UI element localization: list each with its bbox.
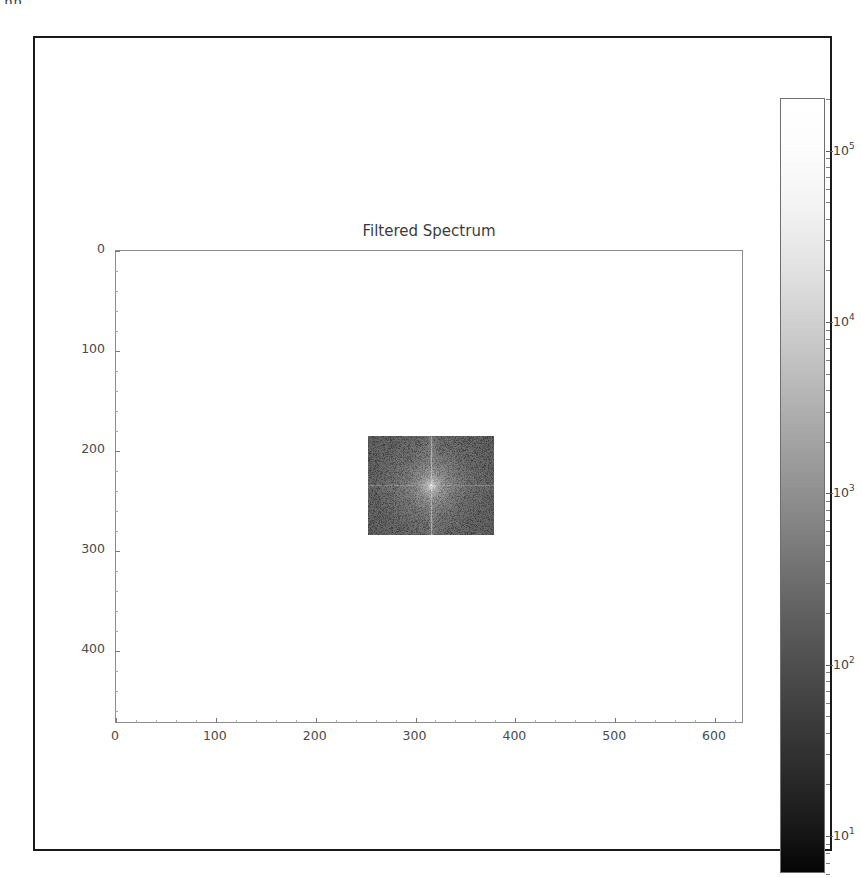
y-tick-minor <box>115 471 118 472</box>
y-tick-minor <box>115 571 118 572</box>
x-tick-minor <box>595 720 596 723</box>
x-tick-minor <box>635 720 636 723</box>
y-tick-minor <box>115 591 118 592</box>
y-tick-minor <box>115 671 118 672</box>
x-tick-minor <box>535 720 536 723</box>
colorbar-tick-minor <box>826 691 830 692</box>
x-tick-major <box>615 718 616 723</box>
y-tick-minor <box>115 411 118 412</box>
colorbar-tick-minor <box>826 99 830 100</box>
x-tick-minor <box>276 720 277 723</box>
colorbar <box>780 98 825 873</box>
x-tick-label: 100 <box>203 728 227 743</box>
x-tick-major <box>715 718 716 723</box>
colorbar-tick-minor <box>826 545 830 546</box>
y-tick-major <box>115 551 120 552</box>
x-tick-major <box>515 718 516 723</box>
y-tick-major <box>115 651 120 652</box>
x-tick-minor <box>695 720 696 723</box>
scan-artifact-text: pp. <box>4 0 28 4</box>
y-tick-major <box>115 251 120 252</box>
page-title: Filtered Spectrum <box>115 222 743 240</box>
colorbar-tick-minor <box>826 874 830 875</box>
colorbar-tick-minor <box>826 853 830 854</box>
x-tick-major <box>416 718 417 723</box>
colorbar-tick-minor <box>826 339 830 340</box>
colorbar-tick-minor <box>826 844 830 845</box>
colorbar-tick-major <box>826 493 833 494</box>
colorbar-tick-label: 102 <box>833 656 855 671</box>
colorbar-tick-minor <box>826 716 830 717</box>
x-tick-minor <box>296 720 297 723</box>
x-tick-major <box>316 718 317 723</box>
colorbar-tick-major <box>826 665 833 666</box>
colorbar-tick-label: 103 <box>833 485 855 500</box>
x-tick-minor <box>655 720 656 723</box>
colorbar-tick-minor <box>826 330 830 331</box>
colorbar-tick-minor <box>826 561 830 562</box>
y-tick-minor <box>115 511 118 512</box>
x-tick-minor <box>555 720 556 723</box>
spectrum-axes <box>115 250 743 723</box>
x-tick-label: 600 <box>702 728 726 743</box>
colorbar-tick-minor <box>826 374 830 375</box>
x-tick-label: 200 <box>303 728 327 743</box>
y-tick-major <box>115 351 120 352</box>
colorbar-tick-minor <box>826 202 830 203</box>
y-tick-minor <box>115 431 118 432</box>
y-tick-minor <box>115 711 118 712</box>
colorbar-tick-minor <box>826 270 830 271</box>
colorbar-tick-minor <box>826 219 830 220</box>
colorbar-tick-major <box>826 151 833 152</box>
colorbar-tick-minor <box>826 510 830 511</box>
x-tick-minor <box>495 720 496 723</box>
x-tick-label: 300 <box>403 728 427 743</box>
colorbar-tick-minor <box>826 167 830 168</box>
y-tick-minor <box>115 631 118 632</box>
y-tick-minor <box>115 531 118 532</box>
y-tick-minor <box>115 611 118 612</box>
x-tick-minor <box>196 720 197 723</box>
colorbar-tick-minor <box>826 501 830 502</box>
colorbar-tick-minor <box>826 189 830 190</box>
colorbar-tick-minor <box>826 240 830 241</box>
y-tick-minor <box>115 311 118 312</box>
x-tick-minor <box>475 720 476 723</box>
colorbar-tick-minor <box>826 754 830 755</box>
x-tick-minor <box>735 720 736 723</box>
colorbar-tick-minor <box>826 733 830 734</box>
colorbar-tick-label: 105 <box>833 142 855 157</box>
y-tick-minor <box>115 691 118 692</box>
y-tick-minor <box>115 371 118 372</box>
spectrum-canvas <box>368 436 494 535</box>
x-tick-minor <box>455 720 456 723</box>
colorbar-tick-major <box>826 322 833 323</box>
colorbar-tick-minor <box>826 672 830 673</box>
y-tick-minor <box>115 291 118 292</box>
y-tick-minor <box>115 491 118 492</box>
colorbar-tick-minor <box>826 583 830 584</box>
colorbar-tick-major <box>826 836 833 837</box>
colorbar-tick-minor <box>826 520 830 521</box>
x-tick-label: 400 <box>502 728 526 743</box>
x-tick-minor <box>176 720 177 723</box>
x-tick-minor <box>675 720 676 723</box>
figure-frame: Filtered Spectrum 0100200300400500600010… <box>33 36 832 851</box>
colorbar-tick-minor <box>826 177 830 178</box>
y-tick-minor <box>115 391 118 392</box>
x-tick-minor <box>376 720 377 723</box>
colorbar-tick-minor <box>826 158 830 159</box>
filtered-spectrum-heatmap <box>368 436 494 535</box>
x-tick-minor <box>356 720 357 723</box>
colorbar-tick-minor <box>826 360 830 361</box>
colorbar-tick-minor <box>826 703 830 704</box>
colorbar-tick-minor <box>826 863 830 864</box>
y-tick-major <box>115 451 120 452</box>
x-tick-label: 500 <box>602 728 626 743</box>
colorbar-tick-minor <box>826 390 830 391</box>
x-tick-minor <box>236 720 237 723</box>
y-tick-minor <box>115 271 118 272</box>
x-tick-minor <box>396 720 397 723</box>
colorbar-tick-minor <box>826 348 830 349</box>
x-tick-minor <box>575 720 576 723</box>
